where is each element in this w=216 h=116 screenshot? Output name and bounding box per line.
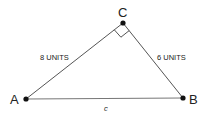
side-ac-label: 8 UNITS <box>40 53 69 62</box>
side-ab-label: c <box>104 104 108 113</box>
vertex-c-point <box>120 20 125 25</box>
side-ab <box>26 98 183 99</box>
vertex-b-label: B <box>189 92 198 107</box>
right-angle-marker <box>114 30 129 37</box>
right-triangle-diagram: A B C 8 UNITS 6 UNITS c <box>0 0 216 116</box>
vertex-c-label: C <box>118 5 127 20</box>
side-cb-label: 6 UNITS <box>157 53 186 62</box>
vertex-b-point <box>180 95 185 100</box>
vertex-a-label: A <box>10 92 19 107</box>
vertex-a-point <box>23 96 28 101</box>
